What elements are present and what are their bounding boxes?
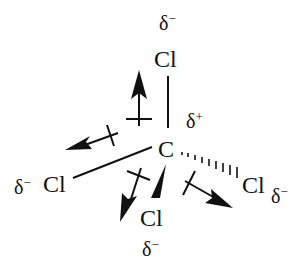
charge-left: δ−	[14, 176, 31, 197]
bond-back-hashed	[182, 152, 237, 178]
bond-front-wedge	[151, 164, 166, 198]
charge-center: δ+	[186, 110, 203, 131]
molecule-diagram	[0, 0, 307, 275]
charge-front: δ−	[142, 238, 159, 259]
dipole-arrow-back	[183, 171, 233, 208]
dipole-arrow-top	[126, 70, 152, 126]
atom-cl-back: Cl	[242, 173, 265, 197]
atom-c-center: C	[158, 137, 174, 161]
atom-cl-front: Cl	[140, 206, 163, 230]
charge-back: δ−	[271, 185, 288, 206]
dipole-arrow-left	[65, 125, 118, 150]
charge-top: δ−	[159, 12, 176, 33]
atom-cl-top: Cl	[154, 47, 177, 71]
atom-cl-left: Cl	[43, 172, 66, 196]
